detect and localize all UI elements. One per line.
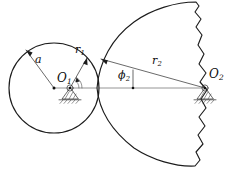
label-radius-a: a bbox=[35, 54, 42, 65]
label-pivot-o1: O1 bbox=[57, 72, 72, 84]
label-radius-r2: r2 bbox=[152, 55, 162, 66]
ground-hatch-o2 bbox=[195, 100, 214, 103]
angle-phi1-arcs bbox=[75, 78, 82, 89]
ground-hatch-o1 bbox=[60, 100, 79, 103]
kinematic-diagram-figure: a r1 O1 ϕ2 r2 O2 bbox=[0, 0, 233, 174]
label-angle-phi2: ϕ2 bbox=[118, 70, 130, 81]
diagram-canvas bbox=[0, 0, 233, 174]
angle-phi2-marker bbox=[132, 70, 135, 89]
dimension-r1 bbox=[70, 58, 88, 88]
pivot-support-o2 bbox=[194, 85, 216, 104]
label-radius-r1: r1 bbox=[75, 44, 85, 55]
pivot-support-o1 bbox=[59, 85, 81, 104]
label-pivot-o2: O2 bbox=[209, 68, 224, 80]
